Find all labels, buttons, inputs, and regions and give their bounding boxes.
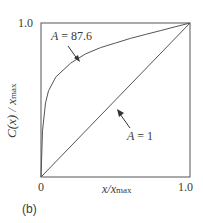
annotation-arrow-a1	[120, 114, 130, 128]
panel-label: (b)	[22, 202, 37, 216]
x-axis-label: x/xmax	[102, 182, 132, 197]
annotation-a1: A = 1	[127, 129, 153, 144]
x-tick-one: 1.0	[178, 180, 193, 195]
annotation-a876: A = 87.6	[51, 29, 92, 44]
series-a1-line	[41, 23, 190, 177]
x-tick-zero: 0	[38, 180, 44, 195]
y-tick-top: 1.0	[18, 16, 33, 31]
y-axis-label: C(x) / xmax	[4, 84, 20, 138]
arrowhead-icon	[117, 109, 124, 117]
